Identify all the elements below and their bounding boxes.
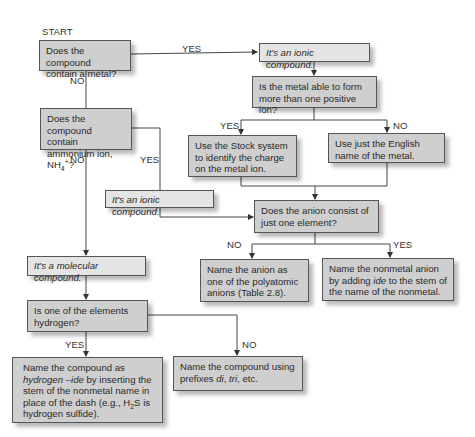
edge-label-ammonium-yes: YES: [140, 154, 159, 165]
node-contains-ammonium: Does the compound contain ammonium ion, …: [40, 108, 132, 150]
node-text-emphasis: ide: [373, 275, 386, 286]
edge-label-one-element-yes: YES: [393, 239, 412, 250]
node-english-name: Use just the English name of the metal.: [328, 133, 445, 163]
node-prefixes: Name the compound using prefixes di, tri…: [173, 356, 303, 391]
node-text: , etc.: [237, 373, 258, 384]
edge-label-multi-ion-yes: YES: [220, 120, 239, 131]
edge-label-hydrogen-yes: YES: [65, 339, 84, 350]
node-text-emphasis: hydrogen –ide: [23, 374, 84, 385]
node-text: Use just the English name of the metal.: [335, 138, 420, 161]
node-text-emphasis: di: [216, 373, 223, 384]
node-text: Name the compound as: [23, 362, 125, 373]
node-text: It's an ionic compound.: [266, 47, 314, 70]
node-text: Use the Stock system to identify the cha…: [195, 140, 288, 174]
node-contains-metal: Does the compound contain a metal?: [39, 40, 131, 71]
node-text: It's an ionic compound.: [112, 194, 160, 217]
node-text: ?: [69, 159, 74, 170]
subscript: 4: [61, 165, 65, 172]
node-nonmetal-anion: Name the nonmetal anion by adding ide to…: [322, 258, 454, 301]
node-text: Name the anion as one of the polyatomic …: [207, 264, 298, 298]
node-text: Does the compound contain a metal?: [46, 45, 116, 79]
node-anion-one-element: Does the anion consist of just one eleme…: [254, 200, 379, 233]
node-ionic-compound-mid: It's an ionic compound.: [105, 190, 214, 208]
node-text-emphasis: tri: [229, 373, 237, 384]
edge-label-hydrogen-no: NO: [242, 339, 256, 350]
edge-label-one-element-no: NO: [227, 239, 241, 250]
node-hydrogen-ide: Name the compound as hydrogen –ide by in…: [12, 357, 163, 423]
node-multiple-positive-ion: Is the metal able to form more than one …: [252, 76, 377, 108]
node-polyatomic-anion: Name the anion as one of the polyatomic …: [200, 259, 309, 302]
edge-label-metal-yes: YES: [182, 43, 201, 54]
node-contains-hydrogen: Is one of the elements hydrogen?: [27, 300, 148, 332]
node-text: Is one of the elements hydrogen?: [34, 305, 128, 328]
edge-label-multi-ion-no: NO: [393, 120, 407, 131]
node-molecular-compound: It's a molecular compound.: [27, 256, 146, 276]
node-stock-system: Use the Stock system to identify the cha…: [188, 135, 297, 177]
node-text: Does the anion consist of just one eleme…: [261, 205, 369, 228]
start-label: START: [42, 26, 73, 37]
node-ionic-compound-top: It's an ionic compound.: [259, 43, 370, 62]
